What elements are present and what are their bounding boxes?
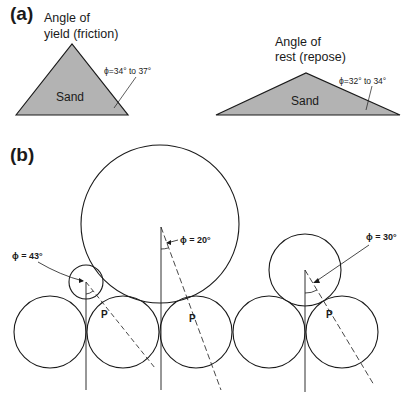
granular-angle-diagram: (a) Angle of yield (friction) Sand ϕ=34°… [0,0,408,401]
phi30-arrowhead [313,278,320,283]
panel-b-label: (b) [10,144,34,165]
small-grain-angle-arc [86,291,93,294]
phi20-arrowhead [166,240,171,245]
contact-point-p3: P [326,309,333,320]
repose-title-line2: rest (repose) [275,50,346,64]
large-grain [81,145,239,303]
contact-point-p2: P [189,313,196,324]
contact-point-p1: P [101,309,108,320]
repose-title-line1: Angle of [275,35,321,49]
phi20-label: ϕ = 20° [180,235,211,245]
yield-title-line1: Angle of [44,11,90,25]
phi30-leader [315,245,369,282]
repose-angle-label: ϕ=32° to 34° [339,76,386,86]
large-grain-angle-arc [161,248,168,249]
repose-sand-label: Sand [291,94,319,108]
phi43-label: ϕ = 43° [12,251,43,261]
medium-grain-angle-arc [305,290,317,293]
yield-sand-pile [16,44,128,115]
panel-a-label: (a) [10,3,33,24]
phi43-arrowhead [79,278,84,283]
yield-title-line2: yield (friction) [44,27,118,41]
grain-base-row [14,296,378,368]
yield-angle-label: ϕ=34° to 37° [104,66,151,76]
phi43-leader [38,262,83,281]
base-grain-3 [160,296,232,368]
phi30-label: ϕ = 30° [366,232,397,242]
base-grain-2 [87,296,159,368]
large-grain-contact-line [161,227,221,390]
yield-sand-label: Sand [56,90,84,104]
small-grain-contact-line [86,282,155,368]
base-grain-4 [233,296,305,368]
yield-angle-leader [114,77,136,108]
base-grain-1 [14,296,86,368]
